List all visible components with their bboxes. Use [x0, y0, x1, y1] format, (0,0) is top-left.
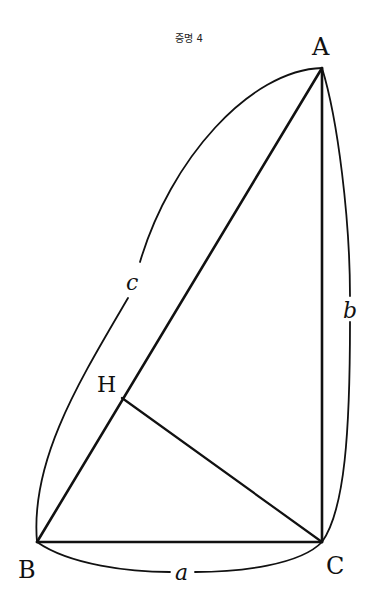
point-label-a: A — [311, 33, 330, 61]
arc-c-lower — [36, 298, 128, 542]
point-label-h: H — [97, 372, 116, 397]
point-label-c: C — [326, 552, 344, 580]
arc-b-lower — [322, 322, 350, 542]
side-label-b: b — [343, 298, 357, 323]
side-label-c: c — [126, 270, 138, 295]
side-ab — [37, 68, 322, 542]
arc-a-left — [37, 542, 170, 572]
altitude-ch — [122, 398, 322, 542]
arc-c-upper — [140, 68, 322, 262]
arc-a-right — [195, 542, 322, 572]
triangle-diagram: A B C H c b a — [0, 0, 378, 610]
arc-b-upper — [322, 68, 350, 296]
side-label-a: a — [175, 560, 188, 585]
point-label-b: B — [18, 556, 36, 584]
